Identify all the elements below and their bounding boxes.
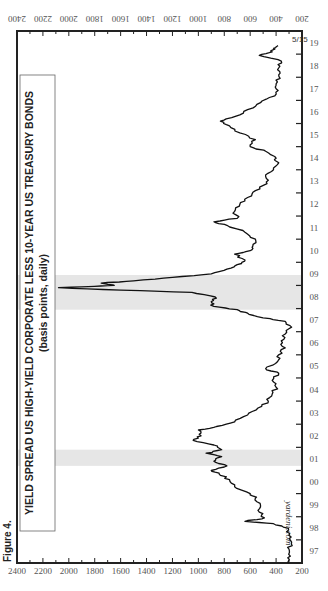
x-tick-label: 10 <box>310 246 320 256</box>
x-tick-label: 19 <box>310 38 320 48</box>
y-tick-label-left: 2000 <box>60 566 79 576</box>
x-tick-label: 11 <box>310 223 319 233</box>
y-tick-label-right: 400 <box>269 14 283 24</box>
end-annotation: 5/15 <box>292 35 308 44</box>
recession-shading <box>17 275 302 466</box>
x-tick-label: 05 <box>310 361 320 371</box>
recession-band <box>17 275 302 310</box>
x-tick-label: 03 <box>310 408 320 418</box>
x-tick-label: 17 <box>310 84 320 94</box>
x-tick-label: 08 <box>310 292 320 302</box>
x-tick-label: 04 <box>310 385 320 395</box>
x-tick-label: 14 <box>310 153 320 163</box>
x-tick-label: 16 <box>310 107 320 117</box>
y-tick-label-left: 200 <box>295 566 309 576</box>
y-tick-label-left: 2200 <box>34 566 53 576</box>
rotated-chart-stage: 2400220020001800160014001200100080060040… <box>0 0 328 591</box>
chart-title: YIELD SPREAD US HIGH-YIELD CORPORATE LES… <box>23 91 35 515</box>
y-axis-left: 2400220020001800160014001200100080060040… <box>8 558 309 576</box>
y-tick-label-left: 1800 <box>86 566 105 576</box>
x-tick-label: 13 <box>310 176 320 186</box>
x-tick-label: 02 <box>310 431 319 441</box>
x-tick-label: 15 <box>310 130 320 140</box>
x-tick-label: 00 <box>310 477 320 487</box>
x-tick-label: 01 <box>310 454 319 464</box>
x-tick-label: 09 <box>310 269 320 279</box>
x-tick-label: 07 <box>310 315 320 325</box>
x-tick-label: 97 <box>310 546 320 556</box>
y-tick-label-right: 2400 <box>8 14 27 24</box>
y-tick-label-right: 1400 <box>137 14 156 24</box>
y-tick-label-right: 600 <box>243 14 257 24</box>
chart-subtitle: (basis points, daily) <box>37 254 49 352</box>
y-tick-label-left: 1000 <box>189 566 208 576</box>
y-tick-label-left: 600 <box>243 566 257 576</box>
y-tick-label-left: 400 <box>269 566 283 576</box>
y-axis-right: 2400220020001800160014001200100080060040… <box>8 14 309 36</box>
y-tick-label-left: 800 <box>218 566 232 576</box>
y-tick-label-right: 200 <box>295 14 309 24</box>
x-tick-label: 06 <box>310 338 320 348</box>
y-tick-label-right: 1000 <box>189 14 208 24</box>
x-tick-label: 18 <box>310 61 320 71</box>
y-tick-label-right: 2200 <box>33 14 52 24</box>
y-tick-label-right: 1600 <box>111 14 129 24</box>
y-tick-label-left: 2400 <box>8 566 27 576</box>
y-tick-label-left: 1600 <box>112 566 130 576</box>
y-tick-label-left: 1200 <box>163 566 182 576</box>
x-tick-label: 98 <box>310 523 320 533</box>
figure-label: Figure 4. <box>2 520 13 562</box>
x-tick-label: 12 <box>310 199 319 209</box>
y-tick-label-left: 1400 <box>138 566 157 576</box>
y-tick-label-right: 1200 <box>163 14 182 24</box>
y-tick-label-right: 800 <box>217 14 231 24</box>
recession-band <box>17 450 302 466</box>
y-tick-label-right: 2000 <box>59 14 78 24</box>
yield-spread-chart: 2400220020001800160014001200100080060040… <box>0 0 328 591</box>
y-tick-label-right: 1800 <box>85 14 104 24</box>
x-tick-label: 99 <box>310 500 320 510</box>
